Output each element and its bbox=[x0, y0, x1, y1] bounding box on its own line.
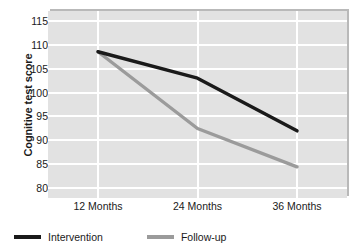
legend-swatch-icon bbox=[147, 235, 174, 239]
y-axis-tick-label: 85 bbox=[22, 158, 48, 170]
y-axis-tick-label: 105 bbox=[22, 63, 48, 75]
chart-legend: Intervention Follow-up bbox=[14, 229, 226, 245]
y-axis-tick-label: 100 bbox=[22, 87, 48, 99]
legend-item-follow-up: Follow-up bbox=[147, 231, 227, 243]
x-axis-tick-label: 12 Months bbox=[53, 200, 143, 212]
series-line bbox=[98, 52, 297, 131]
series-line bbox=[98, 52, 297, 167]
legend-item-intervention: Intervention bbox=[14, 231, 103, 243]
x-axis-tick-label: 24 Months bbox=[153, 200, 243, 212]
legend-label: Follow-up bbox=[181, 231, 227, 243]
y-axis-tick-label: 110 bbox=[22, 39, 48, 51]
legend-swatch-icon bbox=[14, 235, 41, 239]
plot-area bbox=[48, 11, 347, 198]
chart-container: Cognitive test score 8085909510010511011… bbox=[0, 0, 361, 252]
legend-label: Intervention bbox=[48, 231, 103, 243]
x-axis-tick-label: 36 Months bbox=[252, 200, 342, 212]
y-axis-tick-label: 80 bbox=[22, 182, 48, 194]
data-series-layer bbox=[48, 11, 347, 198]
y-axis-tick-label: 90 bbox=[22, 134, 48, 146]
x-axis-tick-labels: 12 Months24 Months36 Months bbox=[48, 200, 347, 218]
y-axis-tick-label: 95 bbox=[22, 110, 48, 122]
y-axis-tick-labels: 80859095100105110115 bbox=[22, 0, 48, 210]
y-axis-tick-label: 115 bbox=[22, 15, 48, 27]
